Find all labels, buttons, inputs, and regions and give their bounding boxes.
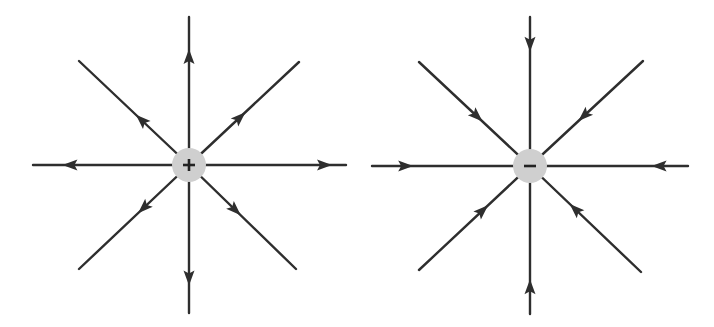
field-line-down-left (79, 165, 189, 269)
field-line-up-left (79, 61, 189, 165)
field-line-down-right (530, 166, 641, 272)
negative-charge-panel (372, 17, 688, 314)
field-line-down-left (419, 166, 530, 270)
field-lines-diagram (0, 0, 714, 327)
field-line-down-right (189, 165, 296, 269)
positive-charge-panel (33, 17, 346, 313)
